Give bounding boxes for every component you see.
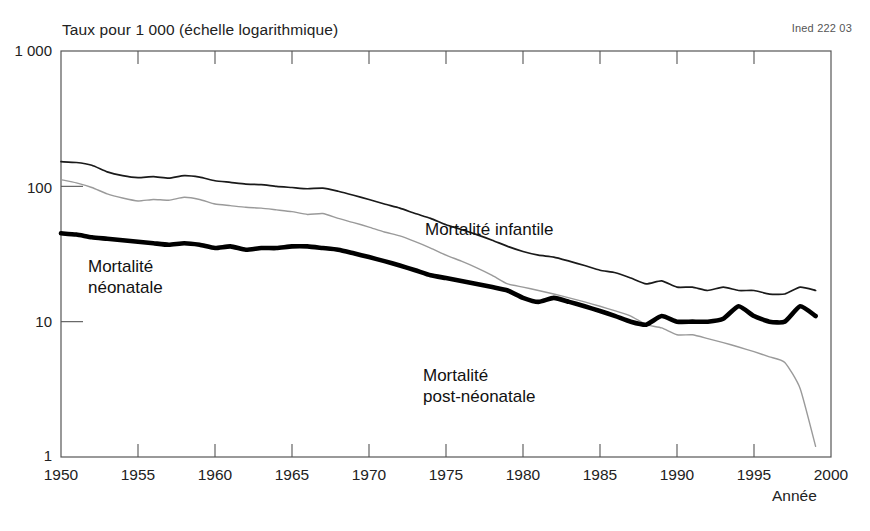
x-tick-label-1990: 1990: [647, 466, 707, 484]
series-label-mortalite-post-neonatale: Mortalité post-néonatale: [423, 366, 535, 407]
series-label-mortalite-infantile: Mortalité infantile: [425, 220, 554, 241]
x-tick-label-1985: 1985: [570, 466, 630, 484]
x-tick-label-1965: 1965: [262, 466, 322, 484]
y-tick-label-1000: 1 000: [0, 42, 52, 59]
tick-marks: [61, 51, 754, 457]
x-tick-label-1975: 1975: [416, 466, 476, 484]
y-tick-label-10: 10: [0, 313, 52, 330]
series-label-postneonatale-line1: Mortalité: [423, 366, 535, 387]
x-tick-label-1960: 1960: [185, 466, 245, 484]
series-label-neonatale-line2: néonatale: [88, 278, 163, 299]
series-label-neonatale-line1: Mortalité: [88, 257, 163, 278]
x-tick-label-1950: 1950: [31, 466, 91, 484]
x-axis-title: Année: [772, 487, 817, 505]
series-label-mortalite-neonatale: Mortalité néonatale: [88, 257, 163, 298]
x-tick-label-1970: 1970: [339, 466, 399, 484]
infant-mortality-log-chart: Taux pour 1 000 (échelle logarithmique) …: [0, 0, 870, 531]
x-tick-label-1955: 1955: [108, 466, 168, 484]
x-tick-label-1980: 1980: [493, 466, 553, 484]
y-tick-label-1: 1: [0, 447, 52, 464]
y-axis-title: Taux pour 1 000 (échelle logarithmique): [62, 21, 338, 39]
x-tick-label-1995: 1995: [724, 466, 784, 484]
source-note: Ined 222 03: [792, 22, 852, 34]
series-label-infantile-line1: Mortalité infantile: [425, 220, 554, 241]
series-label-postneonatale-line2: post-néonatale: [423, 387, 535, 408]
x-tick-label-2000: 2000: [801, 466, 861, 484]
series-line-mortalit-n-onatale: [61, 233, 816, 324]
y-tick-label-100: 100: [0, 179, 52, 196]
